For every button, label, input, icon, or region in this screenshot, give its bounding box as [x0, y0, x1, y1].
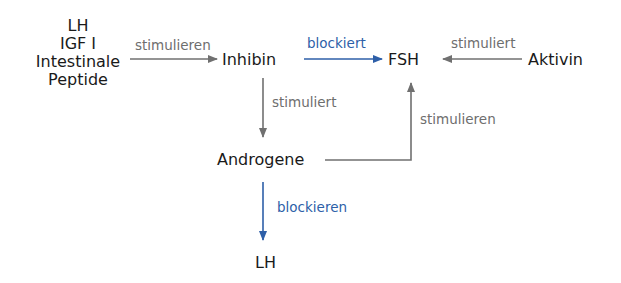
source-lh: LH [34, 17, 122, 35]
label-inhibin-to-androgene: stimuliert [272, 95, 336, 110]
source-node-group: LH IGF I Intestinale Peptide [34, 17, 122, 89]
source-intestinale: Intestinale [34, 53, 122, 71]
label-androgene-to-lh: blockieren [277, 200, 347, 215]
node-androgene: Androgene [217, 151, 304, 169]
label-source-to-inhibin: stimulieren [135, 38, 211, 53]
label-androgene-to-fsh: stimulieren [420, 112, 496, 127]
node-lh-bottom: LH [255, 254, 276, 272]
node-aktivin: Aktivin [528, 51, 583, 69]
label-aktivin-to-fsh: stimuliert [451, 36, 515, 51]
node-fsh: FSH [388, 51, 419, 69]
label-inhibin-to-fsh: blockiert [307, 36, 366, 51]
arrow-androgene-to-fsh [325, 83, 411, 160]
source-peptide: Peptide [34, 71, 122, 89]
source-igf: IGF I [34, 35, 122, 53]
node-inhibin: Inhibin [222, 51, 276, 69]
